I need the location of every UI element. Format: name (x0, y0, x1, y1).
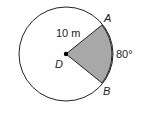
angle-label: 80° (116, 48, 133, 60)
center-point (64, 52, 68, 56)
radius-label: 10 m (56, 27, 80, 39)
point-a-label: A (103, 12, 111, 24)
circle-sector-diagram: 10 m D A B 80° (0, 0, 142, 120)
center-label: D (55, 58, 63, 70)
point-b-label: B (103, 85, 110, 97)
